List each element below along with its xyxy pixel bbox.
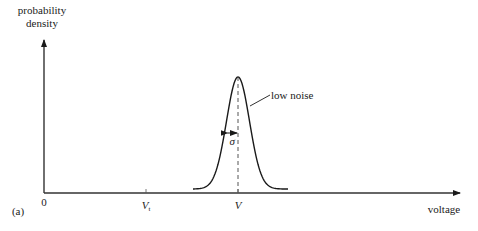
curve-label: low noise <box>271 89 314 101</box>
origin-label: 0 <box>41 196 47 208</box>
curve-label-leader <box>250 95 270 106</box>
y-axis-label-line2: density <box>26 17 58 29</box>
x-axis-label: voltage <box>428 203 460 215</box>
x-tick-label-0: Vt <box>142 199 151 213</box>
sigma-label: σ <box>230 135 236 147</box>
x-tick-label-1: V <box>235 199 243 211</box>
noise-distribution-diagram: probability density voltage 0 (a) VtV σ … <box>0 0 478 231</box>
y-axis-label-line1: probability <box>18 4 67 16</box>
panel-label: (a) <box>12 205 25 218</box>
